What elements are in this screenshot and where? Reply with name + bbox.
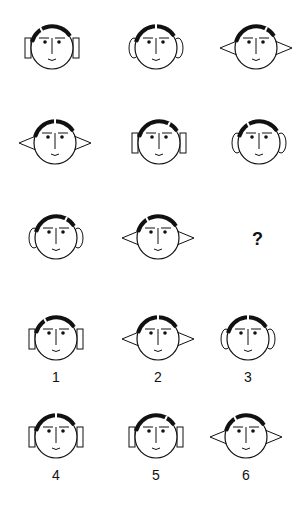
option-label-2[interactable]: 2	[148, 369, 168, 385]
option-label-5[interactable]: 5	[146, 467, 166, 483]
grid-face-r1c2	[116, 18, 196, 78]
missing-cell-question-mark: ?	[252, 229, 263, 250]
grid-face-r3c1	[16, 208, 96, 268]
option-face-1[interactable]	[16, 309, 96, 369]
grid-face-r1c3	[216, 18, 296, 78]
option-label-4[interactable]: 4	[46, 467, 66, 483]
grid-face-r2c1	[15, 113, 95, 173]
option-face-5[interactable]	[116, 407, 196, 467]
grid-face-r2c3	[219, 113, 299, 173]
option-face-4[interactable]	[16, 407, 96, 467]
option-face-3[interactable]	[208, 309, 288, 369]
grid-face-r1c1	[12, 18, 92, 78]
grid-face-r2c2	[119, 113, 199, 173]
option-face-2[interactable]	[118, 309, 198, 369]
option-label-3[interactable]: 3	[238, 369, 258, 385]
grid-face-r3c2	[118, 208, 198, 268]
option-label-1[interactable]: 1	[46, 369, 66, 385]
option-face-6[interactable]	[206, 407, 286, 467]
option-label-6[interactable]: 6	[236, 467, 256, 483]
